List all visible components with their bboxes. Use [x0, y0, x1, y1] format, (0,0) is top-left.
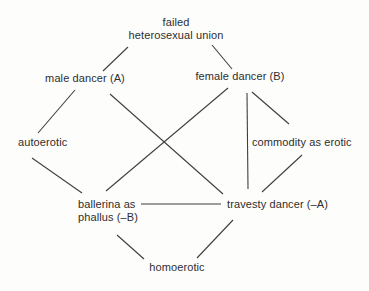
node-failed-heterosexual-union-line1: failed — [129, 16, 224, 29]
edge-ballerina-homoerotic — [117, 235, 144, 259]
edge-travesty-homoerotic — [197, 220, 233, 258]
edge-failed-union-male-dancer — [103, 47, 128, 71]
node-travesty-dancer: travesty dancer (–A) — [227, 198, 328, 211]
diagram-canvas: failed heterosexual union male dancer (A… — [0, 0, 369, 291]
node-female-dancer: female dancer (B) — [195, 70, 284, 83]
edge-autoerotic-ballerina — [32, 158, 82, 193]
node-commodity-as-erotic: commodity as erotic — [252, 136, 352, 149]
edge-female-dancer-commodity — [252, 92, 289, 124]
edge-female-dancer-ballerina — [106, 88, 228, 191]
node-male-dancer: male dancer (A) — [45, 72, 125, 85]
node-autoerotic: autoerotic — [18, 136, 67, 149]
edge-female-dancer-travesty — [247, 93, 248, 189]
node-failed-heterosexual-union: failed heterosexual union — [129, 16, 224, 42]
node-ballerina-as-phallus-line2: phallus (–B) — [78, 211, 138, 224]
node-ballerina-as-phallus-line1: ballerina as — [78, 198, 138, 211]
edge-commodity-travesty — [262, 155, 302, 192]
edge-male-dancer-autoerotic — [38, 90, 75, 133]
node-homoerotic: homoerotic — [149, 261, 204, 274]
node-ballerina-as-phallus: ballerina as phallus (–B) — [78, 198, 138, 224]
edge-male-dancer-travesty — [110, 94, 223, 194]
edge-failed-union-female-dancer — [212, 45, 232, 69]
node-failed-heterosexual-union-line2: heterosexual union — [129, 29, 224, 42]
